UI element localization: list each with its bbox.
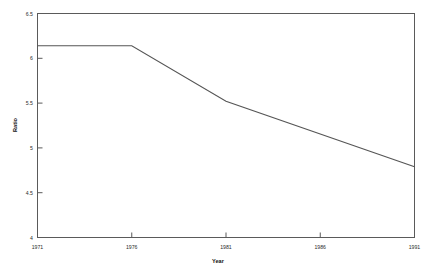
y-tick-label-4_5: 4.5 (26, 190, 33, 196)
x-tick-label-1971: 1971 (32, 244, 44, 250)
chart-background (0, 0, 436, 273)
y-tick-label-4: 4 (30, 235, 33, 241)
x-tick-label-1986: 1986 (314, 244, 326, 250)
y-tick-label-5: 5 (30, 145, 33, 151)
y-tick-label-5_5: 5.5 (26, 100, 33, 106)
y-tick-label-6: 6 (30, 55, 33, 61)
x-tick-label-1981: 1981 (220, 244, 232, 250)
y-tick-label-6_5: 6.5 (26, 11, 33, 17)
chart-canvas: 6.5 6 5.5 5 4.5 4 1971 1976 1981 1986 19… (0, 0, 436, 273)
x-tick-label-1991: 1991 (409, 244, 421, 250)
x-tick-label-1976: 1976 (126, 244, 138, 250)
y-axis-title: Ratio (12, 117, 18, 132)
x-axis-title: Year (212, 258, 225, 264)
line-chart-figure: 6.5 6 5.5 5 4.5 4 1971 1976 1981 1986 19… (0, 0, 436, 273)
